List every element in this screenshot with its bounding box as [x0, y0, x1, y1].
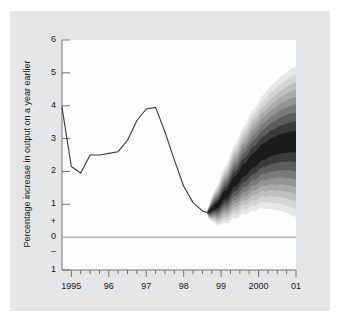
- y-tick-label: –: [38, 247, 56, 256]
- y-tick-label: 1: [38, 265, 56, 274]
- x-tick-label: 1995: [51, 282, 91, 291]
- projection-fan: [207, 66, 296, 225]
- y-tick-label: 2: [38, 166, 56, 175]
- fan-chart-figure: 654321+0–1 199596979899200001 Percentage…: [0, 0, 339, 328]
- y-tick-label: 0: [38, 232, 56, 241]
- y-axis-title-text: Percentage increase in output on a year …: [22, 38, 32, 270]
- y-tick-label: +: [38, 217, 56, 226]
- y-tick-label: 4: [38, 101, 56, 110]
- x-tick-label: 98: [164, 282, 204, 291]
- chart-canvas: [0, 0, 339, 328]
- y-tick-label: 1: [38, 199, 56, 208]
- x-tick-label: 2000: [239, 282, 279, 291]
- y-tick-label: 3: [38, 134, 56, 143]
- history-line: [62, 107, 207, 212]
- x-tick-label: 97: [126, 282, 166, 291]
- y-tick-label: 5: [38, 68, 56, 77]
- y-tick-label: 6: [38, 35, 56, 44]
- x-tick-label: 96: [89, 282, 129, 291]
- x-tick-label: 99: [201, 282, 241, 291]
- x-tick-label: 01: [276, 282, 316, 291]
